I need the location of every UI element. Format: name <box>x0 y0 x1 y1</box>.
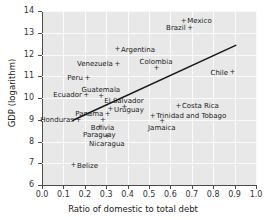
grid-line-vertical <box>213 11 214 185</box>
data-point-marker <box>71 163 76 168</box>
y-tick <box>38 76 42 77</box>
y-axis-title: GDP (logarithm) <box>7 43 17 143</box>
data-point-label: Trinidad and Tobago <box>156 112 226 120</box>
data-point-label: Guatemala <box>82 86 121 94</box>
data-point-marker <box>98 94 103 99</box>
data-point-marker <box>84 76 89 81</box>
x-tick-label: 0.6 <box>158 190 182 199</box>
grid-line-vertical <box>149 11 150 185</box>
grid-line-vertical <box>235 11 236 185</box>
grid-line-vertical <box>256 11 257 185</box>
x-tick <box>85 185 86 189</box>
y-tick-label: 6 <box>10 180 34 189</box>
y-tick <box>38 142 42 143</box>
x-tick-label: 0.0 <box>30 190 54 199</box>
data-point-label: Honduras <box>40 116 74 124</box>
x-tick <box>256 185 257 189</box>
x-tick <box>235 185 236 189</box>
data-point-label: Peru <box>67 74 83 82</box>
x-tick <box>128 185 129 189</box>
x-tick-label: 0.9 <box>223 190 247 199</box>
y-tick <box>38 98 42 99</box>
data-point-label: Paraguay <box>83 131 116 139</box>
x-axis-title: Ratio of domestic to total debt <box>0 204 266 214</box>
y-tick <box>38 55 42 56</box>
data-point-label: Ecuador <box>53 91 82 99</box>
x-tick-label: 1.0 <box>244 190 266 199</box>
data-point-marker <box>97 125 102 130</box>
data-point-marker <box>75 118 80 123</box>
data-point-marker <box>150 114 155 119</box>
data-point-marker <box>104 134 109 139</box>
data-point-label: Colombia <box>140 58 173 66</box>
x-tick <box>106 185 107 189</box>
y-tick <box>38 33 42 34</box>
scatter-chart: 67891011121314 0.00.10.20.30.40.50.60.70… <box>0 0 266 220</box>
data-point-marker <box>175 104 180 109</box>
x-tick-label: 0.4 <box>116 190 140 199</box>
data-point-marker <box>159 119 164 124</box>
x-tick <box>170 185 171 189</box>
x-tick <box>63 185 64 189</box>
data-point-marker <box>154 66 159 71</box>
data-point-label: Uruguay <box>114 106 144 114</box>
data-point-label: Brazil <box>166 24 186 32</box>
x-tick <box>192 185 193 189</box>
x-tick-label: 0.2 <box>73 190 97 199</box>
y-tick <box>38 163 42 164</box>
grid-line-vertical <box>192 11 193 185</box>
x-tick-label: 0.1 <box>51 190 75 199</box>
data-point-label: Belize <box>77 162 98 170</box>
data-point-marker <box>114 62 119 67</box>
x-tick-label: 0.3 <box>94 190 118 199</box>
x-tick-label: 0.5 <box>137 190 161 199</box>
data-point-marker <box>187 26 192 31</box>
y-tick-label: 14 <box>10 6 34 15</box>
data-point-label: Nicaragua <box>89 140 125 148</box>
y-tick-label: 7 <box>10 158 34 167</box>
data-point-label: Venezuela <box>77 60 113 68</box>
grid-line-vertical <box>170 11 171 185</box>
data-point-label: Jamaica <box>148 124 176 132</box>
x-tick <box>42 185 43 189</box>
data-point-label: El Salvador <box>104 97 143 105</box>
data-point-marker <box>181 19 186 24</box>
x-tick-label: 0.7 <box>180 190 204 199</box>
x-tick-label: 0.8 <box>201 190 225 199</box>
x-tick <box>149 185 150 189</box>
data-point-label: Chile <box>211 69 229 77</box>
x-tick <box>213 185 214 189</box>
y-tick-label: 13 <box>10 28 34 37</box>
data-point-label: Costa Rica <box>182 102 219 110</box>
data-point-marker <box>114 47 119 52</box>
y-tick <box>38 11 42 12</box>
data-point-label: Argentina <box>121 46 155 54</box>
data-point-marker <box>230 70 235 75</box>
